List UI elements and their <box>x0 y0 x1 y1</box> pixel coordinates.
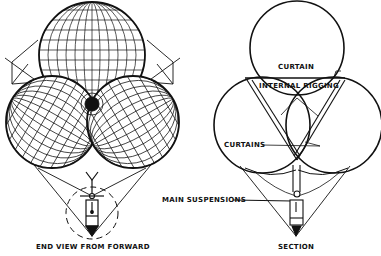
section-gondola <box>290 165 303 236</box>
label-internal-rigging: INTERNAL RIGGING <box>259 82 339 90</box>
label-main-suspensions: MAIN SUSPENSIONS <box>162 196 246 204</box>
airship-diagram: END VIEW FROM FORWARD SECTION CURTAIN IN… <box>0 0 381 256</box>
caption-section: SECTION <box>278 243 314 251</box>
caption-end-view: END VIEW FROM FORWARD <box>36 243 150 251</box>
top-cell <box>250 1 344 95</box>
label-curtains: CURTAINS <box>224 141 265 149</box>
label-curtain: CURTAIN <box>278 63 314 71</box>
hub-icon <box>85 97 99 111</box>
diagram-drawing <box>0 0 381 256</box>
